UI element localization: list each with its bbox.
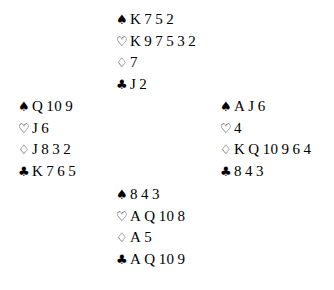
east-spades-row: ♠ AJ6 — [220, 99, 311, 121]
diamond-icon: ♢ — [116, 231, 129, 244]
east-diamonds-row: ♢ KQ10964 — [220, 142, 311, 164]
heart-icon: ♡ — [18, 122, 31, 135]
spade-icon: ♠ — [116, 13, 129, 26]
north-clubs-row: ♣ J2 — [116, 77, 196, 99]
south-spades-row: ♠ 843 — [116, 187, 185, 209]
south-hearts-row: ♡ AQ108 — [116, 209, 185, 231]
west-diamonds-cards: J832 — [31, 142, 71, 157]
east-diamonds-cards: KQ10964 — [233, 142, 311, 157]
spade-icon: ♠ — [18, 100, 31, 113]
west-spades-row: ♠ Q109 — [18, 99, 76, 121]
hand-west: ♠ Q109 ♡ J6 ♢ J832 ♣ K765 — [18, 99, 76, 185]
diamond-icon: ♢ — [220, 143, 233, 156]
south-hearts-cards: AQ108 — [129, 209, 185, 224]
south-diamonds-row: ♢ A5 — [116, 230, 185, 252]
hand-north: ♠ K752 ♡ K97532 ♢ 7 ♣ J2 — [116, 12, 196, 98]
north-spades-row: ♠ K752 — [116, 12, 196, 34]
east-clubs-cards: 843 — [233, 164, 264, 179]
diamond-icon: ♢ — [116, 56, 129, 69]
east-spades-cards: AJ6 — [233, 99, 265, 114]
south-clubs-row: ♣ AQ109 — [116, 252, 185, 274]
west-hearts-cards: J6 — [31, 121, 49, 136]
south-clubs-cards: AQ109 — [129, 252, 185, 267]
west-hearts-row: ♡ J6 — [18, 121, 76, 143]
east-hearts-row: ♡ 4 — [220, 121, 311, 143]
south-diamonds-cards: A5 — [129, 230, 152, 245]
heart-icon: ♡ — [220, 122, 233, 135]
club-icon: ♣ — [18, 165, 31, 178]
club-icon: ♣ — [220, 165, 233, 178]
east-clubs-row: ♣ 843 — [220, 164, 311, 186]
diamond-icon: ♢ — [18, 143, 31, 156]
club-icon: ♣ — [116, 253, 129, 266]
hand-east: ♠ AJ6 ♡ 4 ♢ KQ10964 ♣ 843 — [220, 99, 311, 185]
north-diamonds-cards: 7 — [129, 55, 138, 70]
north-hearts-cards: K97532 — [129, 34, 196, 49]
club-icon: ♣ — [116, 78, 129, 91]
north-diamonds-row: ♢ 7 — [116, 55, 196, 77]
north-spades-cards: K752 — [129, 12, 174, 27]
heart-icon: ♡ — [116, 35, 129, 48]
heart-icon: ♡ — [116, 210, 129, 223]
north-clubs-cards: J2 — [129, 77, 147, 92]
south-spades-cards: 843 — [129, 187, 160, 202]
bridge-deal-diagram: ♠ K752 ♡ K97532 ♢ 7 ♣ J2 ♠ Q109 ♡ J6 ♢ J… — [0, 0, 334, 290]
west-clubs-cards: K765 — [31, 164, 76, 179]
west-diamonds-row: ♢ J832 — [18, 142, 76, 164]
spade-icon: ♠ — [220, 100, 233, 113]
west-clubs-row: ♣ K765 — [18, 164, 76, 186]
north-hearts-row: ♡ K97532 — [116, 34, 196, 56]
east-hearts-cards: 4 — [233, 121, 242, 136]
west-spades-cards: Q109 — [31, 99, 73, 114]
hand-south: ♠ 843 ♡ AQ108 ♢ A5 ♣ AQ109 — [116, 187, 185, 273]
spade-icon: ♠ — [116, 188, 129, 201]
